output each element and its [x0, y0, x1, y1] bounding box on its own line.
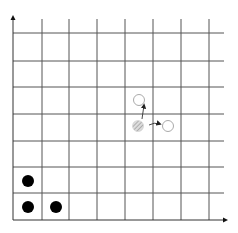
pieces [22, 95, 174, 214]
board-canvas [0, 0, 238, 233]
hatched-piece [133, 121, 144, 132]
grid-lines [13, 19, 224, 220]
move-arrows [142, 105, 160, 125]
y-axis-arrow-icon [11, 15, 16, 20]
hollow-circle-move-right-target [163, 121, 174, 132]
black-stone [22, 201, 34, 213]
x-axis-arrow-icon [223, 218, 228, 223]
black-stone [22, 175, 34, 187]
arrow-up-icon [142, 105, 144, 119]
hollow-circle-move-up-target [134, 95, 145, 106]
arrow-right-icon [149, 123, 160, 125]
black-stone [50, 201, 62, 213]
grid-board-diagram [0, 0, 238, 233]
axes [11, 15, 229, 223]
